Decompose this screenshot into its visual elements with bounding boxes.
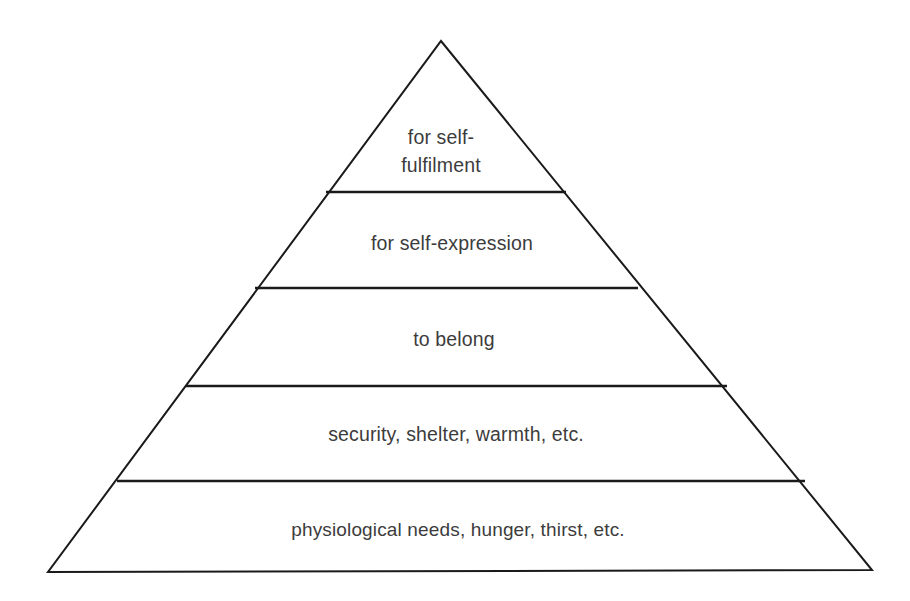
pyramid-outline bbox=[48, 41, 872, 572]
tier-1-label-line-2: fulfilment bbox=[401, 154, 481, 176]
pyramid-graphic: for self- fulfilment for self-expression… bbox=[0, 0, 910, 601]
tier-3-label: to belong bbox=[413, 328, 495, 350]
tier-5-label: physiological needs, hunger, thirst, etc… bbox=[291, 519, 625, 540]
tier-2-label: for self-expression bbox=[371, 232, 533, 254]
tier-4-label: security, shelter, warmth, etc. bbox=[328, 423, 584, 445]
tier-1-label-line-1: for self- bbox=[408, 126, 474, 148]
pyramid-diagram: for self- fulfilment for self-expression… bbox=[0, 0, 910, 601]
